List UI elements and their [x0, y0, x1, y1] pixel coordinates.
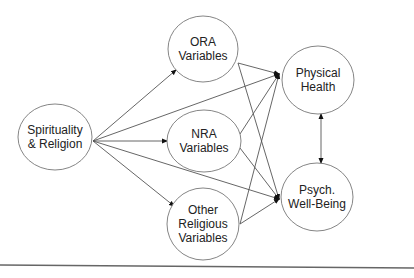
baseline-divider: [0, 265, 414, 268]
path-diagram: [0, 0, 414, 278]
node-spirituality-circle: [18, 104, 92, 170]
node-physical-circle: [282, 46, 354, 114]
node-psych-circle: [281, 163, 353, 231]
node-other-circle: [167, 188, 239, 260]
nodes-layer: [18, 16, 354, 260]
node-ora-circle: [168, 16, 238, 82]
node-nra-circle: [167, 110, 241, 172]
edge-nra-to-psych: [240, 148, 279, 199]
edge-ora-to-physical: [238, 63, 279, 74]
edge-spirituality-to-other: [93, 141, 174, 206]
edge-spirituality-to-ora: [93, 70, 176, 141]
edge-other-to-physical: [240, 74, 279, 224]
edge-nra-to-physical: [240, 74, 279, 134]
